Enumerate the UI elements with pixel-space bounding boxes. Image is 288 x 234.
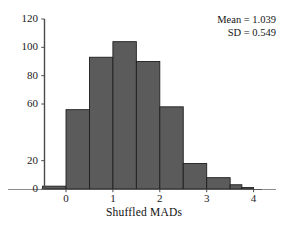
x-tick-label-0: 0 [51,193,81,204]
histogram-bar-tail-1 [242,188,254,189]
x-tick-label-4: 4 [239,193,269,204]
x-axis-title: Shuffled MADs [0,206,288,218]
histogram-bar-4 [136,62,159,190]
y-tick-label-100: 100 [0,41,38,52]
x-tick-label-1: 1 [98,193,128,204]
histogram-bar-0 [43,186,66,189]
mean-annotation: Mean = 1.039 [217,13,276,26]
y-tick-label-120: 120 [0,13,38,24]
y-tick-label-20: 20 [0,155,38,166]
y-tick-label-80: 80 [0,70,38,81]
statistics-annotation: Mean = 1.039 SD = 0.549 [217,13,276,39]
histogram-figure: 0206080100120 01234 Shuffled MADs Mean =… [0,0,288,234]
x-tick-label-2: 2 [145,193,175,204]
histogram-bar-3 [113,42,136,189]
histogram-bar-6 [183,164,206,190]
y-tick-label-0: 0 [0,183,38,194]
histogram-bar-2 [89,57,112,189]
histogram-bar-7 [207,178,230,189]
histogram-bar-tail-0 [230,185,242,189]
x-tick-label-3: 3 [192,193,222,204]
histogram-bar-1 [66,110,89,189]
sd-annotation: SD = 0.549 [217,26,276,39]
bars-group [43,42,254,189]
y-tick-label-60: 60 [0,98,38,109]
histogram-bar-5 [160,107,183,189]
